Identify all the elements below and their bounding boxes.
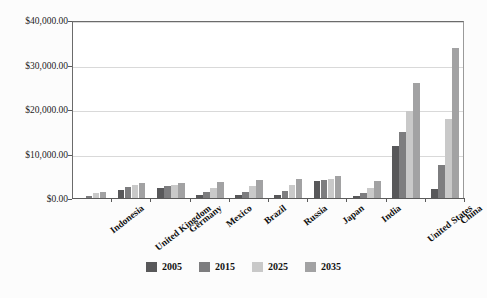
- y-axis-tick-mark: [68, 66, 72, 67]
- y-axis-tick-label: $10,000.00: [2, 150, 68, 160]
- y-axis-tick-label: $0.00: [2, 194, 68, 204]
- x-axis-label: Japan: [341, 203, 367, 226]
- y-axis-tick-mark: [68, 155, 72, 156]
- bar[interactable]: [328, 179, 335, 199]
- bar-group: [347, 22, 386, 199]
- bar[interactable]: [296, 179, 303, 199]
- x-axis-tick-mark: [268, 198, 269, 202]
- y-axis-tick-label: $40,000.00: [2, 16, 68, 26]
- bar[interactable]: [335, 176, 342, 199]
- bar-group: [387, 22, 426, 199]
- bar-group: [112, 22, 151, 199]
- bar[interactable]: [217, 182, 224, 199]
- legend-item[interactable]: 2025: [252, 262, 288, 272]
- legend-swatch-icon: [252, 262, 263, 272]
- y-axis-tick-label: $20,000.00: [2, 105, 68, 115]
- bar[interactable]: [132, 185, 139, 199]
- legend-item[interactable]: 2035: [305, 262, 341, 272]
- legend-label: 2005: [162, 262, 182, 272]
- x-axis-tick-mark: [229, 198, 230, 202]
- legend-label: 2025: [268, 262, 288, 272]
- bar-group: [269, 22, 308, 199]
- x-axis-tick-mark: [190, 198, 191, 202]
- bar[interactable]: [314, 181, 321, 199]
- bar[interactable]: [438, 165, 445, 199]
- x-axis-label: Mexico: [224, 203, 253, 229]
- x-axis-tick-mark: [346, 198, 347, 202]
- bar[interactable]: [445, 119, 452, 199]
- bar[interactable]: [399, 132, 406, 199]
- x-axis-label: United Kingdom: [154, 203, 214, 253]
- bar-group: [73, 22, 112, 199]
- bar[interactable]: [289, 185, 296, 199]
- bar-group: [230, 22, 269, 199]
- bar-group: [151, 22, 190, 199]
- plot-area: [72, 21, 464, 199]
- legend-swatch-icon: [305, 262, 316, 272]
- y-axis-tick-mark: [68, 21, 72, 22]
- bar[interactable]: [413, 83, 420, 199]
- x-axis-tick-mark: [386, 198, 387, 202]
- bar[interactable]: [452, 48, 459, 199]
- bar[interactable]: [321, 180, 328, 199]
- bar-group: [308, 22, 347, 199]
- bar[interactable]: [406, 111, 413, 199]
- bars-layer: [73, 22, 463, 199]
- y-axis-tick-label: $30,000.00: [2, 61, 68, 71]
- y-axis-tick-mark: [68, 199, 72, 200]
- bar[interactable]: [374, 181, 381, 199]
- x-axis-label: Brazil: [262, 203, 288, 226]
- legend: 2005201520252035: [0, 262, 487, 272]
- x-axis-tick-mark: [307, 198, 308, 202]
- legend-swatch-icon: [199, 262, 210, 272]
- bar-group: [426, 22, 465, 199]
- bar[interactable]: [139, 183, 146, 199]
- x-axis-tick-mark: [111, 198, 112, 202]
- legend-label: 2035: [321, 262, 341, 272]
- x-axis-tick-mark: [150, 198, 151, 202]
- x-axis-label: Indonesia: [109, 203, 146, 235]
- legend-item[interactable]: 2015: [199, 262, 235, 272]
- bar[interactable]: [178, 183, 185, 199]
- bar-chart: $0.00$10,000.00$20,000.00$30,000.00$40,0…: [0, 0, 487, 298]
- x-axis-label: India: [379, 203, 402, 224]
- bar[interactable]: [171, 185, 178, 199]
- bar[interactable]: [392, 146, 399, 199]
- y-axis: $0.00$10,000.00$20,000.00$30,000.00$40,0…: [0, 0, 68, 298]
- x-axis-tick-mark: [425, 198, 426, 202]
- legend-label: 2015: [215, 262, 235, 272]
- legend-swatch-icon: [146, 262, 157, 272]
- x-axis-tick-mark: [464, 198, 465, 202]
- legend-item[interactable]: 2005: [146, 262, 182, 272]
- bar-group: [191, 22, 230, 199]
- bar[interactable]: [256, 180, 263, 199]
- x-axis-label: Russia: [302, 203, 329, 227]
- y-axis-tick-mark: [68, 110, 72, 111]
